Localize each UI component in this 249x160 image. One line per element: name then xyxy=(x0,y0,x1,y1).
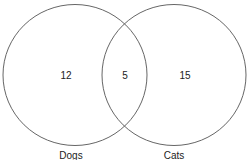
venn-diagram: 12 5 15 Dogs Cats xyxy=(0,0,249,160)
cats-label: Cats xyxy=(164,150,185,160)
cats-only-count: 15 xyxy=(179,70,191,81)
intersection-count: 5 xyxy=(122,70,128,81)
dogs-label: Dogs xyxy=(59,150,82,160)
dogs-only-count: 12 xyxy=(60,70,72,81)
